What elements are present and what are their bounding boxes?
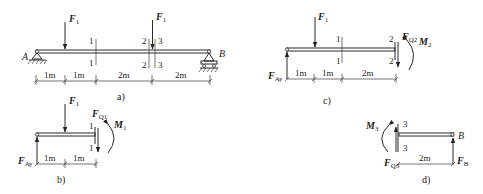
reaction-label-fay: FAy (267, 70, 283, 83)
section-bottom: 3 (403, 143, 408, 153)
dim-label: 1m (295, 68, 307, 78)
beam (36, 50, 210, 53)
dim-label: 1m (322, 68, 334, 78)
shear-label-fq1: FQ1 (91, 108, 108, 121)
moment-label-m3: M3 (365, 120, 379, 133)
section-2-bottom: 2 (389, 56, 394, 66)
beam-segment (287, 48, 395, 51)
dim-label: 1m (73, 70, 85, 80)
dim-label: 2m (118, 70, 130, 80)
caption-d: d) (422, 174, 430, 186)
section-3-bottom: 3 (158, 60, 163, 70)
caption-b: b) (57, 174, 65, 186)
section-1-top: 1 (336, 34, 341, 44)
moment-label-m1: M1 (113, 119, 127, 132)
beam-segment (399, 133, 453, 136)
figure-b: 1 1 F1 FQ1 M1 FAy 1m 1m b) (17, 95, 127, 186)
section-2-top: 2 (389, 34, 394, 44)
hinge-end (285, 48, 288, 51)
section-top: 3 (403, 119, 408, 129)
force-label-f1: F1 (68, 95, 80, 108)
section-2-bottom: 2 (142, 60, 147, 70)
caption-a: a) (117, 91, 125, 103)
dim-label: 2m (419, 153, 431, 163)
section-bottom: 1 (89, 143, 94, 153)
section-1-top: 1 (89, 36, 94, 46)
label-a: A (21, 51, 29, 62)
label-b: B (219, 48, 225, 59)
reaction-label-fb: FB (456, 155, 469, 168)
dim-label: 1m (73, 153, 85, 163)
moment-label-m2: M2 (418, 36, 432, 49)
section-1-bottom: 1 (89, 58, 94, 68)
section-2-top: 2 (142, 36, 147, 46)
figure-a: A B F1 F1 1 1 2 2 3 (21, 11, 225, 103)
dim-label: 1m (44, 153, 56, 163)
section-1-bottom: 1 (336, 56, 341, 66)
dim-label: 2m (175, 70, 187, 80)
dim-label: 2m (362, 68, 374, 78)
hinge-end (35, 133, 38, 136)
section-top: 1 (89, 121, 94, 131)
moment-arrow-m3 (382, 125, 389, 152)
shear-label-fq3: FQ3 (383, 157, 400, 170)
figure-d: 3 3 B FQ3 M3 FB 2m d) (365, 119, 469, 186)
beam-segment (37, 133, 95, 136)
caption-c: c) (323, 95, 331, 107)
moment-arrow-m2 (407, 40, 414, 70)
force-label-f1: F1 (317, 11, 329, 24)
dim-label: 1m (44, 70, 56, 80)
section-3-top: 3 (158, 36, 163, 46)
shear-label-fq2: FQ2 (401, 31, 418, 44)
label-b: B (458, 130, 464, 141)
figure-c: F1 1 1 2 2 FQ2 M2 FAy 1m (267, 11, 432, 107)
force-label-f1-left: F1 (68, 13, 80, 26)
reaction-label-fay: FAy (17, 155, 33, 168)
force-label-f1-right: F1 (155, 11, 167, 24)
hinge-end (451, 133, 454, 136)
